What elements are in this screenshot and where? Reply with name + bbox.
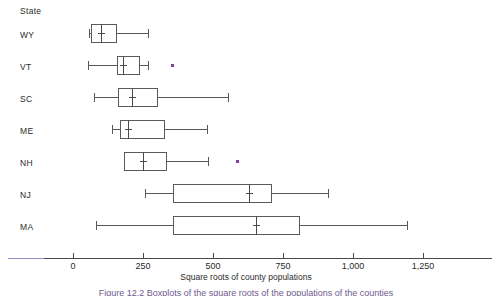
tick-label: 1,000 — [342, 261, 365, 271]
boxplot-figure: State WY VT SC ME NH NJ MA 02505007501,0… — [0, 0, 492, 296]
tick-mark — [353, 253, 354, 258]
tick-mark — [283, 253, 284, 258]
tick-mark — [143, 253, 144, 258]
tick-label: 1,250 — [412, 261, 435, 271]
box-plot-ma — [0, 0, 492, 296]
whisker-cap-left — [96, 221, 97, 230]
tick-label: 500 — [205, 261, 220, 271]
tick-mark — [73, 253, 74, 258]
value-axis-title: Square roots of county populations — [180, 272, 311, 282]
whisker-left — [96, 225, 173, 226]
tick-mark — [213, 253, 214, 258]
value-axis-line — [44, 258, 492, 259]
whisker-cap-right — [407, 221, 408, 230]
tick-mark — [423, 253, 424, 258]
median-marker — [253, 225, 260, 226]
tick-label: 0 — [70, 261, 75, 271]
figure-caption: Figure 12.2 Boxplots of the square roots… — [0, 288, 492, 296]
box-iqr — [173, 216, 300, 235]
tick-label: 250 — [135, 261, 150, 271]
plot-area — [0, 0, 492, 296]
whisker-right — [300, 225, 407, 226]
tick-label: 750 — [275, 261, 290, 271]
